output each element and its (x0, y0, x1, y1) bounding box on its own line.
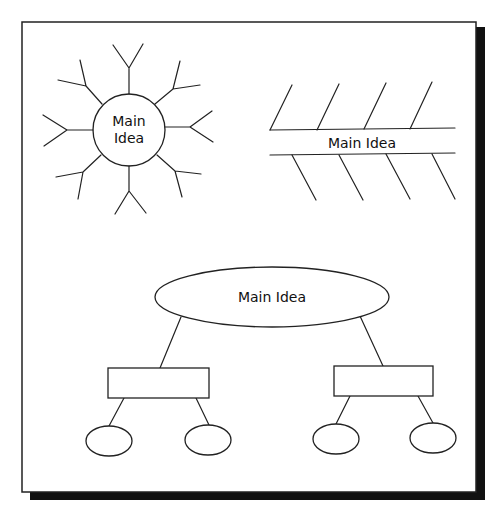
tree-branch-box-left (108, 368, 209, 398)
tree-branch-box-right (334, 366, 433, 396)
tree-leaf-ellipse-1 (86, 426, 132, 456)
frame (22, 22, 476, 492)
diagram-canvas: Main Idea Main Idea (0, 0, 501, 515)
tree-root-label: Main Idea (238, 289, 306, 305)
fishbone-label: Main Idea (328, 135, 396, 151)
sunburst-label-line1: Main (112, 113, 145, 129)
tree-leaf-ellipse-3 (313, 424, 359, 454)
tree-leaf-ellipse-4 (410, 423, 456, 453)
tree-leaf-ellipse-2 (185, 425, 231, 455)
sunburst-label-line2: Idea (114, 130, 144, 146)
